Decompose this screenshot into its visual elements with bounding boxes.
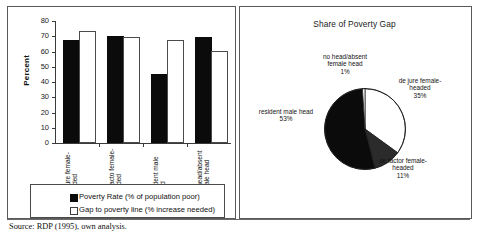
pie-label-no-head: no head/absent female head 1% [318,53,372,75]
y-axis-tick-label: 10 [41,124,49,132]
bar-poverty-rate [151,74,168,143]
y-axis-tick-label: 0 [45,139,49,147]
y-axis-tick [52,52,56,53]
y-axis-tick [52,128,56,129]
bar-group [151,21,183,143]
pie-label-de-facto: de factor female-headed 11% [370,157,436,179]
bar-chart-panel: Percent 01020304050607080 de jure female… [7,6,236,219]
pie-label-de-facto-text: de factor female-headed [379,157,427,171]
x-axis-tick [143,143,144,147]
legend-label-poverty-gap: Gap to poverty line (% increase needed) [79,205,215,214]
y-axis-tick-label: 60 [41,48,49,56]
source-divider [7,219,470,220]
pie-label-resident-male-text: resident male head [259,108,313,115]
legend-entry-poverty-gap: Gap to poverty line (% increase needed) [79,206,215,214]
y-axis-tick-label: 70 [41,33,49,41]
y-axis-tick-label: 20 [41,109,49,117]
pie-label-resident-male-value: 53% [280,115,293,122]
bar-group [195,21,227,143]
y-axis-tick [52,36,56,37]
legend-entry-poverty-rate: Poverty Rate (% of population poor) [79,193,200,201]
y-axis-tick [52,82,56,83]
bar-poverty-rate [195,37,212,143]
pie-label-de-jure: de jure female-headed 35% [392,77,448,99]
pie-label-no-head-text: no head/absent female head [323,53,367,67]
y-axis-tick [52,97,56,98]
y-axis-tick [52,21,56,22]
y-axis-tick [52,113,56,114]
bar-group [63,21,95,143]
bar-group [107,21,139,143]
x-axis-tick [99,143,100,147]
y-axis-tick [52,67,56,68]
legend-swatch-solid [70,194,78,202]
y-axis-tick-label: 50 [41,63,49,71]
pie-label-resident-male: resident male head 53% [258,108,314,123]
bar-chart-plot-area: 01020304050607080 de jure female-headedd… [55,21,231,144]
bar-poverty-gap [167,40,184,143]
source-note: Source: RDP (1995), own analysis. [9,222,127,232]
y-axis-tick [52,143,56,144]
bar-poverty-rate [63,40,80,143]
y-axis-tick-label: 30 [41,94,49,102]
bar-chart-y-axis-title: Percent [22,55,31,86]
pie-chart-title: Share of Poverty Gap [239,19,470,29]
legend-label-poverty-rate: Poverty Rate (% of population poor) [79,192,200,201]
bar-poverty-gap [123,37,140,143]
pie-label-de-jure-value: 35% [414,92,427,99]
bar-chart-legend: Poverty Rate (% of population poor) Gap … [30,184,225,218]
bar-poverty-rate [107,36,124,143]
figure-page: Percent 01020304050607080 de jure female… [0,0,477,239]
bar-poverty-gap [211,51,228,143]
x-axis-tick [187,143,188,147]
pie-label-no-head-value: 1% [340,68,349,75]
bar-poverty-gap [79,31,96,143]
pie-label-de-jure-text: de jure female-headed [399,77,442,91]
y-axis-tick-label: 40 [41,78,49,86]
y-axis-tick-label: 80 [41,17,49,25]
legend-swatch-hollow [70,207,78,215]
pie-label-de-facto-value: 11% [397,172,409,179]
